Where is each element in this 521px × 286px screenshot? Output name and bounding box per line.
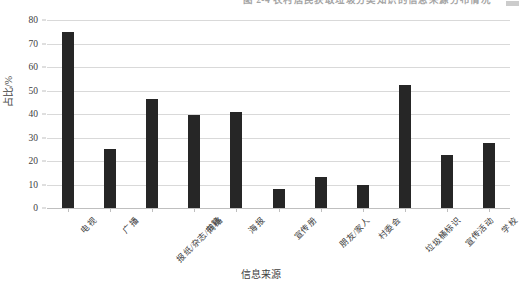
bar [146, 99, 158, 208]
gridline [47, 91, 510, 92]
x-axis-tick-mark [363, 208, 364, 212]
y-axis-tick-label: 80 [29, 15, 39, 25]
y-axis-tick-mark [42, 208, 46, 209]
y-axis-tick-mark [42, 161, 46, 162]
bar [230, 112, 242, 208]
bar-chart-figure: 图 2-4 农村居民获取垃圾分类知识的信息来源分布情况 010203040506… [0, 0, 521, 286]
x-axis-tick-label: 宣传活动 [461, 214, 495, 248]
x-axis-tick-label: 海报 [246, 214, 267, 235]
gridline [47, 44, 510, 45]
y-axis-tick-mark [42, 137, 46, 138]
gridline [47, 114, 510, 115]
gridline [47, 20, 510, 21]
y-axis-tick-mark [42, 43, 46, 44]
x-axis-tick-mark [68, 208, 69, 212]
y-axis-tick-label: 50 [29, 86, 39, 96]
y-axis-tick-mark [42, 114, 46, 115]
y-axis-tick-mark [42, 67, 46, 68]
x-axis-tick-mark [405, 208, 406, 212]
y-axis-tick-label: 0 [33, 203, 38, 213]
y-axis-tick-mark [42, 184, 46, 185]
gridline [47, 67, 510, 68]
bar [441, 155, 453, 208]
bar [62, 32, 74, 208]
x-axis-tick-label: 朋友/家人 [336, 214, 372, 250]
plot-area [47, 20, 510, 208]
y-axis-tick-label: 60 [29, 62, 39, 72]
x-axis-tick-mark [236, 208, 237, 212]
x-axis-tick-label: 村委会 [375, 214, 403, 242]
caption-text: 图 2-4 农村居民获取垃圾分类知识的信息来源分布情况 [243, 0, 491, 6]
x-axis-tick-label: 学校 [498, 214, 519, 235]
x-axis-tick-label: 垃圾桶标识 [422, 214, 462, 254]
bar [273, 189, 285, 208]
x-axis-tick-mark [447, 208, 448, 212]
x-axis-tick-mark [152, 208, 153, 212]
x-axis-title: 信息来源 [0, 266, 521, 281]
x-axis-tick-mark [194, 208, 195, 212]
x-axis-tick-mark [321, 208, 322, 212]
x-axis-tick-label: 宣传册 [290, 214, 318, 242]
bar [357, 185, 369, 209]
x-axis-tick-label: 电视 [77, 214, 98, 235]
y-axis-title: 占比/% [0, 64, 15, 120]
caption-tail-mark [506, 1, 519, 6]
y-axis-tick-mark [42, 20, 46, 21]
bar [104, 149, 116, 208]
cropped-caption-strip: 图 2-4 农村居民获取垃圾分类知识的信息来源分布情况 [0, 0, 521, 11]
bar [483, 143, 495, 208]
y-axis-tick-label: 40 [29, 109, 39, 119]
y-axis-tick-label: 30 [29, 133, 39, 143]
x-axis-tick-mark [279, 208, 280, 212]
gridline [47, 138, 510, 139]
y-axis-tick-mark [42, 90, 46, 91]
bar [399, 85, 411, 208]
y-axis-tick-label: 20 [29, 156, 39, 166]
bar [188, 115, 200, 208]
y-axis-tick-label: 70 [29, 39, 39, 49]
x-axis-tick-mark [110, 208, 111, 212]
y-axis-tick-label: 10 [29, 180, 39, 190]
bar [315, 177, 327, 208]
x-axis-tick-label: 广播 [119, 214, 140, 235]
x-axis-tick-mark [489, 208, 490, 212]
